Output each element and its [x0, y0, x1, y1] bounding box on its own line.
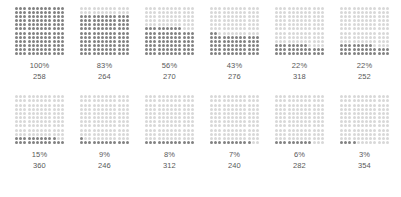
waffle-count-label: 312 — [163, 161, 176, 172]
waffle-panel: 7%240 — [202, 95, 267, 172]
waffle-panel-labels: 9%246 — [98, 150, 111, 172]
waffle-count-label: 240 — [228, 161, 241, 172]
waffle-panel-labels: 56%270 — [162, 61, 177, 83]
waffle-count-label: 276 — [227, 72, 242, 83]
waffle-dot-grid — [15, 6, 65, 56]
waffle-panel: 3%354 — [332, 95, 397, 172]
waffle-percent-label: 22% — [357, 61, 372, 72]
waffle-panel-labels: 83%264 — [97, 61, 112, 83]
waffle-count-label: 282 — [293, 161, 306, 172]
waffle-dot — [255, 141, 259, 145]
waffle-row-1: 100%25883%26456%27043%27622%31822%252 — [0, 6, 401, 83]
waffle-panel-labels: 7%240 — [228, 150, 241, 172]
waffle-dot-grid — [275, 6, 325, 56]
waffle-panel: 8%312 — [137, 95, 202, 172]
waffle-dot — [60, 141, 64, 145]
waffle-dot — [385, 141, 389, 145]
waffle-dot-grid — [210, 6, 260, 56]
waffle-panel-labels: 22%252 — [357, 61, 372, 83]
waffle-dot-grid — [145, 6, 195, 56]
waffle-dot-grid — [145, 95, 195, 145]
waffle-dot-grid — [80, 95, 130, 145]
waffle-percent-label: 22% — [292, 61, 307, 72]
waffle-percent-label: 3% — [358, 150, 371, 161]
waffle-panel: 83%264 — [72, 6, 137, 83]
waffle-dot — [190, 141, 194, 145]
waffle-count-label: 270 — [162, 72, 177, 83]
waffle-count-label: 354 — [358, 161, 371, 172]
waffle-dot — [255, 52, 259, 56]
waffle-count-label: 258 — [30, 72, 50, 83]
waffle-dot-grid — [80, 6, 130, 56]
waffle-count-label: 246 — [98, 161, 111, 172]
waffle-count-label: 360 — [32, 161, 47, 172]
waffle-count-label: 252 — [357, 72, 372, 83]
waffle-count-label: 264 — [97, 72, 112, 83]
waffle-percent-label: 100% — [30, 61, 50, 72]
waffle-panel: 56%270 — [137, 6, 202, 83]
waffle-panel-labels: 8%312 — [163, 150, 176, 172]
waffle-percent-label: 83% — [97, 61, 112, 72]
waffle-percent-label: 56% — [162, 61, 177, 72]
waffle-panel-labels: 15%360 — [32, 150, 47, 172]
waffle-panel-labels: 43%276 — [227, 61, 242, 83]
waffle-panel-labels: 3%354 — [358, 150, 371, 172]
waffle-row-2: 15%3609%2468%3127%2406%2823%354 — [0, 95, 401, 172]
waffle-panel: 6%282 — [267, 95, 332, 172]
waffle-dot-grid — [210, 95, 260, 145]
waffle-dot-grid — [275, 95, 325, 145]
waffle-panel-labels: 100%258 — [30, 61, 50, 83]
waffle-percent-label: 9% — [98, 150, 111, 161]
waffle-panel: 22%252 — [332, 6, 397, 83]
waffle-percent-label: 15% — [32, 150, 47, 161]
waffle-percent-label: 8% — [163, 150, 176, 161]
waffle-panel: 9%246 — [72, 95, 137, 172]
waffle-dot-grid — [340, 95, 390, 145]
waffle-dot — [125, 141, 129, 145]
waffle-panel: 100%258 — [7, 6, 72, 83]
waffle-panel: 15%360 — [7, 95, 72, 172]
waffle-dot — [385, 52, 389, 56]
waffle-panel: 22%318 — [267, 6, 332, 83]
waffle-dot — [190, 52, 194, 56]
waffle-panel-labels: 6%282 — [293, 150, 306, 172]
waffle-dot — [320, 141, 324, 145]
waffle-dot — [125, 52, 129, 56]
row-spacer — [0, 83, 401, 95]
waffle-chart-figure: 100%25883%26456%27043%27622%31822%252 15… — [0, 0, 401, 197]
waffle-dot-grid — [15, 95, 65, 145]
waffle-percent-label: 7% — [228, 150, 241, 161]
waffle-count-label: 318 — [292, 72, 307, 83]
waffle-percent-label: 6% — [293, 150, 306, 161]
waffle-panel-labels: 22%318 — [292, 61, 307, 83]
waffle-panel: 43%276 — [202, 6, 267, 83]
waffle-dot-grid — [340, 6, 390, 56]
waffle-percent-label: 43% — [227, 61, 242, 72]
waffle-dot — [60, 52, 64, 56]
waffle-dot — [320, 52, 324, 56]
